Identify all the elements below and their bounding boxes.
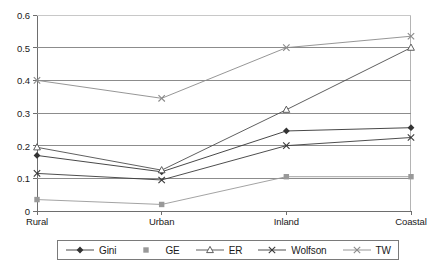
series-plot-layer (0, 0, 439, 270)
y-axis-tick-label: 0.1 (17, 173, 30, 184)
data-point-marker (77, 247, 84, 254)
data-point-marker (158, 95, 164, 101)
x-axis-line (37, 211, 411, 212)
legend-label: GE (165, 245, 179, 256)
data-point-marker (206, 246, 213, 252)
data-point-marker (283, 128, 290, 135)
series-tw (34, 33, 414, 101)
legend-label: Wolfson (291, 245, 326, 256)
legend-marker-wolfson-icon (257, 244, 287, 256)
legend-entry-er[interactable]: ER (195, 244, 243, 256)
data-point-marker (408, 124, 415, 131)
data-point-marker (408, 33, 414, 39)
series-er (34, 44, 415, 173)
y-axis-tick-label: 0.5 (17, 42, 30, 53)
gridline (37, 145, 411, 146)
gridline (37, 178, 411, 179)
data-point-marker (158, 168, 165, 175)
gridline (37, 15, 411, 16)
y-axis-tick-label: 0.2 (17, 140, 30, 151)
line-chart: 00.10.20.30.40.50.6 RuralUrbanInlandCoas… (0, 0, 439, 270)
gridline (37, 113, 411, 114)
legend-entry-wolfson[interactable]: Wolfson (257, 244, 326, 256)
legend-entry-gini[interactable]: Gini (65, 244, 116, 256)
y-axis-tick (33, 80, 37, 81)
y-axis-tick (33, 47, 37, 48)
gridline (37, 80, 411, 81)
data-point-marker (408, 134, 414, 140)
x-axis-tick (411, 211, 412, 215)
series-gini (34, 124, 415, 175)
legend-label: TW (376, 245, 391, 256)
x-axis-tick (161, 211, 162, 215)
legend-label: ER (229, 245, 243, 256)
legend-marker-tw-icon (342, 244, 372, 256)
y-axis-tick (33, 145, 37, 146)
gridline (37, 47, 411, 48)
y-axis-tick-label: 0 (25, 206, 30, 217)
x-axis-tick (286, 211, 287, 215)
y-axis-tick-label: 0.6 (17, 10, 30, 21)
data-point-marker (158, 167, 165, 173)
chart-legend: GiniGEERWolfsonTW (57, 240, 399, 260)
data-point-marker (159, 202, 164, 207)
y-axis-tick (33, 113, 37, 114)
x-axis-tick-label: Inland (274, 216, 299, 227)
y-axis-tick-label: 0.4 (17, 75, 30, 86)
legend-marker-er-icon (195, 244, 225, 256)
legend-label: Gini (99, 245, 116, 256)
y-axis-tick (33, 15, 37, 16)
x-axis-tick-label: Coastal (395, 216, 427, 227)
y-axis-tick-label: 0.3 (17, 108, 30, 119)
data-point-marker (144, 247, 149, 252)
series-ge (34, 174, 413, 207)
legend-entry-ge[interactable]: GE (131, 244, 179, 256)
x-axis-tick-label: Urban (149, 216, 174, 227)
legend-marker-ge-icon (131, 244, 161, 256)
legend-marker-gini-icon (65, 244, 95, 256)
x-axis-tick-label: Rural (26, 216, 48, 227)
y-axis-tick (33, 178, 37, 179)
legend-entry-tw[interactable]: TW (342, 244, 391, 256)
x-axis-tick (37, 211, 38, 215)
data-point-marker (283, 106, 290, 112)
series-wolfson (34, 134, 414, 183)
